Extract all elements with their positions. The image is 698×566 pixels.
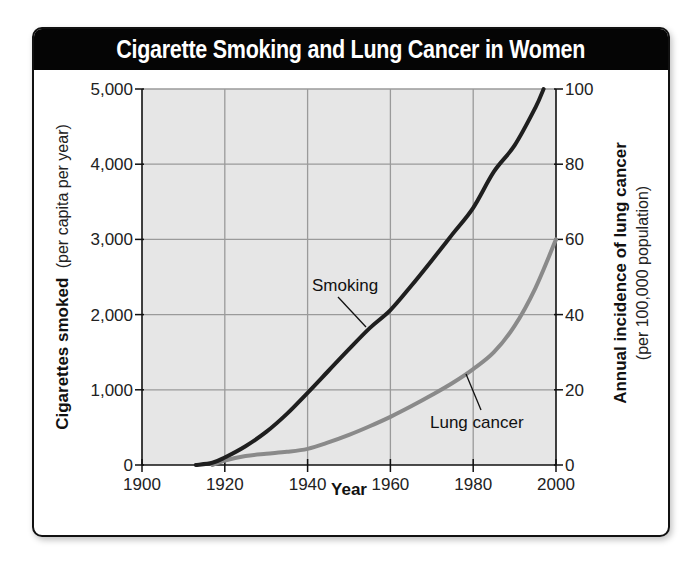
x-tick-label: 1960 (371, 475, 409, 494)
lung-annotation: Lung cancer (430, 413, 524, 432)
y-left-tick-label: 5,000 (90, 80, 133, 99)
y-right-tick-label: 80 (565, 155, 584, 174)
y-right-tick-label: 60 (565, 230, 584, 249)
y-right-tick-label: 40 (565, 306, 584, 325)
y-right-title-main: Annual incidence of lung cancer (611, 142, 630, 404)
x-tick-label: 1980 (454, 475, 492, 494)
y-left-title-sub: (per capita per year) (54, 124, 71, 268)
x-tick-label: 1920 (206, 475, 244, 494)
x-tick-label: 2000 (537, 475, 575, 494)
y-left-axis-title: Cigarettes smoked (per capita per year) (53, 124, 72, 430)
y-right-tick-label: 0 (565, 456, 574, 475)
y-left-tick-label: 0 (124, 456, 133, 475)
y-left-tick-label: 2,000 (90, 306, 133, 325)
smoking-annotation: Smoking (312, 276, 378, 295)
y-left-tick-label: 4,000 (90, 155, 133, 174)
y-left-tick-label: 3,000 (90, 230, 133, 249)
x-axis-title: Year (331, 480, 367, 499)
y-right-tick-label: 100 (565, 80, 593, 99)
x-tick-label: 1900 (123, 475, 161, 494)
x-tick-label: 1940 (289, 475, 327, 494)
chart-plot: 190019201940196019802000001,000202,00040… (0, 0, 698, 566)
y-left-tick-label: 1,000 (90, 381, 133, 400)
y-right-tick-label: 20 (565, 381, 584, 400)
y-right-title-sub: (per 100,000 population) (634, 186, 651, 360)
y-left-title-main: Cigarettes smoked (53, 278, 72, 430)
